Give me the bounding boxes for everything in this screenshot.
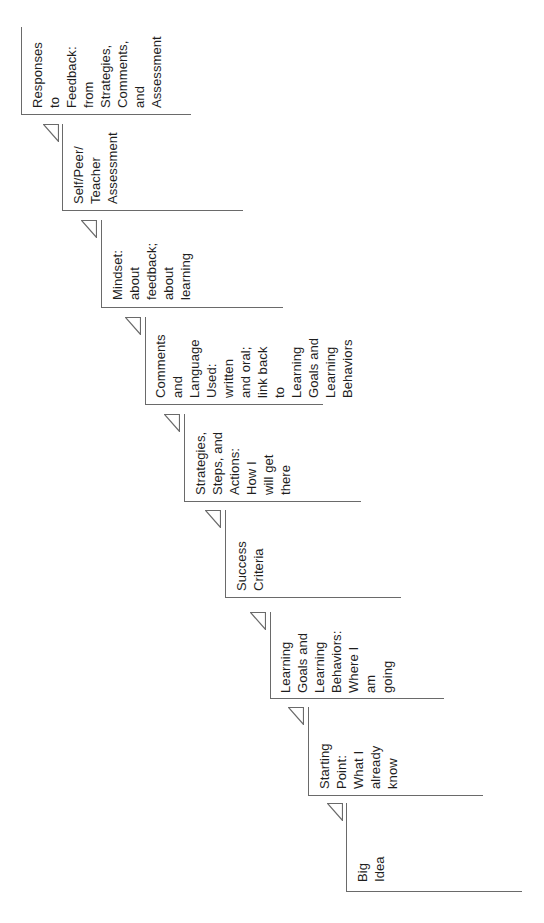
triangle-marker-icon <box>125 317 141 335</box>
triangle-marker-icon <box>43 124 59 142</box>
step-label: Comments and Language Used: written and … <box>152 334 356 398</box>
step-riser <box>101 220 102 308</box>
triangle-marker-icon <box>327 803 343 821</box>
step-label: Learning Goals and Learning Behaviors: W… <box>277 631 396 693</box>
step-tread <box>184 501 361 502</box>
step-label: Success Criteria <box>233 541 267 591</box>
triangle-marker-icon <box>205 510 221 528</box>
triangle-marker-icon <box>288 707 304 725</box>
step-riser <box>21 27 22 115</box>
step-label: Mindset: about feedback; about learning <box>109 243 194 300</box>
step-tread <box>225 597 401 598</box>
step-riser <box>308 707 309 796</box>
step-riser <box>270 612 271 699</box>
step-tread <box>62 210 243 211</box>
step-tread <box>270 698 444 699</box>
step-label: Self/Peer/ Teacher Assessment <box>70 132 121 204</box>
step-riser <box>62 124 63 211</box>
step-tread <box>346 891 522 892</box>
step-tread <box>145 404 323 405</box>
step-riser <box>184 414 185 502</box>
triangle-marker-icon <box>164 414 180 432</box>
step-riser <box>346 803 347 892</box>
triangle-marker-icon <box>81 220 97 238</box>
step-label: Responses to Feedback: from Strategies, … <box>29 36 165 108</box>
step-riser <box>145 317 146 405</box>
step-label: Big Idea <box>354 856 388 882</box>
step-riser <box>225 510 226 598</box>
step-label: Strategies, Steps, and Actions: How I wi… <box>192 432 294 495</box>
step-tread <box>101 307 283 308</box>
step-label: Starting Point: What I already know <box>316 743 401 789</box>
step-tread <box>308 795 483 796</box>
step-tread <box>21 114 191 115</box>
triangle-marker-icon <box>250 612 266 630</box>
